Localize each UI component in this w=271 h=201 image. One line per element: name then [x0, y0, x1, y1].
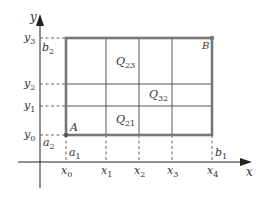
point-label-a: A: [69, 121, 78, 134]
y-tick-label-0: y0: [23, 128, 35, 143]
y-axis-arrow-icon: [36, 14, 44, 26]
bound-label-b1: b1: [215, 146, 227, 161]
cell-label-q32: Q32: [149, 88, 168, 103]
point-label-b: B: [201, 40, 209, 51]
bound-label-b2: b2: [42, 41, 54, 56]
point-b-marker: [210, 36, 214, 40]
x-tick-label-4: x4: [207, 164, 218, 179]
y-tick-label-1: y1: [23, 99, 35, 114]
partition-grid: [66, 38, 212, 135]
x-tick-label-3: x3: [167, 164, 178, 179]
x-tick-label-2: x2: [134, 164, 145, 179]
partition-diagram: y x y3 y2 y1 y0 x0 x1 x2 x3 x4 b2 a2 a1 …: [0, 0, 271, 201]
bound-label-a2: a2: [43, 136, 55, 151]
y-axis-label: y: [29, 10, 37, 24]
x-tick-label-0: x0: [61, 164, 72, 179]
cell-label-q21: Q21: [116, 113, 135, 128]
y-tick-label-2: y2: [23, 77, 35, 92]
cell-label-q23: Q23: [116, 55, 135, 70]
bound-label-a1: a1: [69, 146, 81, 161]
x-axis-label: x: [246, 165, 253, 179]
point-a-marker: [64, 133, 68, 137]
y-tick-label-3: y3: [23, 31, 35, 46]
x-tick-label-1: x1: [101, 164, 112, 179]
